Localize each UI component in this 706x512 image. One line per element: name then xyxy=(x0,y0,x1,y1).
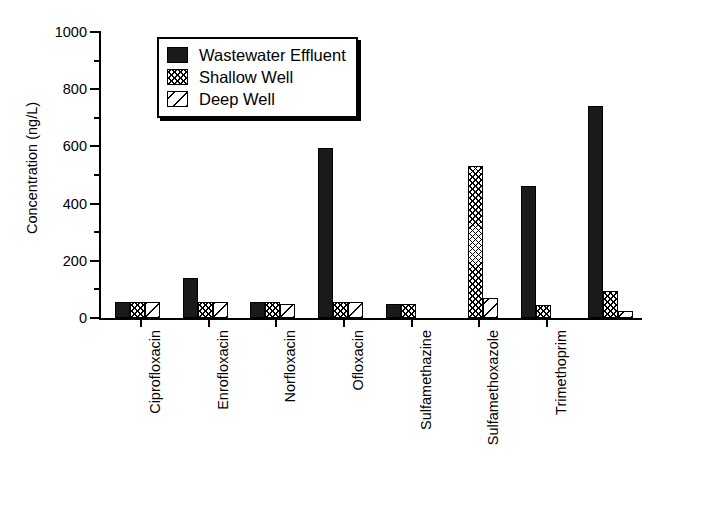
x-axis-tick-label: Ofloxacin xyxy=(350,330,366,390)
y-axis-tick-label: 800 xyxy=(63,81,87,97)
y-axis-tick-label: 200 xyxy=(63,253,87,269)
x-axis-tick xyxy=(411,318,413,327)
legend-item-deep-well: Deep Well xyxy=(167,88,346,110)
bar-group xyxy=(386,32,438,318)
bar-diagonal xyxy=(145,302,160,318)
x-axis-tick-label: Enrofloxacin xyxy=(215,330,231,410)
x-axis-tick-label: Ciprofloxacin xyxy=(147,330,163,414)
legend-swatch-diagonal-icon xyxy=(167,91,188,107)
x-axis-tick-label: Sulfamethoxazole xyxy=(485,330,501,445)
x-axis-tick xyxy=(208,318,210,327)
bar-group xyxy=(453,32,505,318)
y-axis-tick-minor xyxy=(94,288,101,290)
bar-cross-hatch xyxy=(603,291,618,318)
legend-item-wastewater-effluent: Wastewater Effluent xyxy=(167,44,346,66)
x-axis-tick xyxy=(140,318,142,327)
bar-diagonal xyxy=(483,298,498,318)
y-axis-tick-major xyxy=(90,88,101,90)
bar-group xyxy=(521,32,573,318)
legend-swatch-crosshatch-icon xyxy=(167,69,188,85)
legend-label-deep-well: Deep Well xyxy=(199,91,275,108)
y-axis-tick-major xyxy=(90,145,101,147)
bar-diagonal xyxy=(348,302,363,318)
y-axis-tick-major xyxy=(90,31,101,33)
bar-solid xyxy=(115,302,130,318)
y-axis-tick-label: 1000 xyxy=(55,24,87,40)
bar-solid xyxy=(386,304,401,318)
bar-group xyxy=(588,32,640,318)
x-axis-tick xyxy=(478,318,480,327)
y-axis-tick-major xyxy=(90,203,101,205)
bar-cross-hatch xyxy=(468,166,483,318)
x-axis-tick xyxy=(546,318,548,327)
bar-cross-hatch xyxy=(536,305,551,318)
x-axis-tick xyxy=(275,318,277,327)
y-axis-tick-minor xyxy=(94,117,101,119)
y-axis-tick-minor xyxy=(94,231,101,233)
bar-solid xyxy=(588,106,603,318)
x-axis-tick-label: Trimethoprim xyxy=(553,330,569,415)
y-axis-title: Concentration (ng/L) xyxy=(24,58,40,278)
bar-cross-hatch xyxy=(130,302,145,318)
chart-legend: Wastewater Effluent Shallow Well Deep We… xyxy=(157,37,358,118)
legend-swatch-solid-icon xyxy=(167,47,188,63)
bar-solid xyxy=(183,278,198,318)
y-axis-tick-label: 600 xyxy=(63,138,87,154)
y-axis-tick-label: 0 xyxy=(79,310,87,326)
y-axis-tick-minor xyxy=(94,60,101,62)
bar-cross-hatch xyxy=(333,302,348,318)
bar-diagonal xyxy=(280,304,295,318)
legend-item-shallow-well: Shallow Well xyxy=(167,66,346,88)
x-axis-tick-label: Sulfamethazine xyxy=(418,330,434,430)
bar-chart-figure: Concentration (ng/L) 02004006008001000Ci… xyxy=(0,0,706,512)
x-axis-tick-label: Norfloxacin xyxy=(282,330,298,403)
y-axis-tick-major xyxy=(90,260,101,262)
bar-solid xyxy=(521,186,536,318)
legend-label-shallow-well: Shallow Well xyxy=(199,69,293,86)
y-axis-tick-minor xyxy=(94,174,101,176)
legend-label-wastewater-effluent: Wastewater Effluent xyxy=(199,47,346,64)
y-axis-tick-label: 400 xyxy=(63,196,87,212)
bar-diagonal xyxy=(213,302,228,318)
bar-solid xyxy=(318,148,333,318)
bar-solid xyxy=(250,302,265,318)
bar-cross-hatch xyxy=(265,302,280,318)
y-axis-tick-major xyxy=(90,317,101,319)
bar-cross-hatch xyxy=(198,302,213,318)
bar-cross-hatch xyxy=(401,304,416,318)
x-axis-tick xyxy=(343,318,345,327)
bar-diagonal xyxy=(618,311,633,318)
